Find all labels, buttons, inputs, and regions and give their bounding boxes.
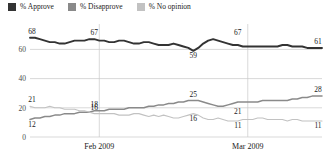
y-axis-tick-label: 40	[19, 74, 27, 83]
x-axis-tick-label: Feb 2009	[84, 142, 114, 151]
data-point-label: 67	[91, 28, 99, 37]
square-swatch-icon	[8, 3, 16, 11]
plot-area: 0204060 686759676112182521282116161111 F…	[0, 18, 328, 151]
series-line-approve	[30, 38, 322, 51]
y-axis-tick-label: 0	[22, 133, 26, 142]
legend-label-noopinion: % No opinion	[149, 3, 191, 11]
data-point-label: 11	[234, 121, 241, 130]
legend-label-disapprove: % Disapprove	[80, 3, 123, 11]
square-swatch-icon	[137, 3, 145, 11]
data-point-label: 16	[91, 103, 99, 112]
series-lines	[30, 38, 322, 121]
data-point-label: 21	[234, 107, 242, 116]
x-axis-tick-label: Mar 2009	[232, 142, 263, 151]
chart-legend: % Approve % Disapprove % No opinion	[8, 3, 191, 11]
square-swatch-icon	[68, 3, 76, 11]
data-point-label: 68	[28, 27, 36, 36]
y-axis-tick-label: 60	[19, 45, 27, 54]
y-axis-tick-labels: 0204060	[19, 45, 27, 142]
legend-item-disapprove: % Disapprove	[68, 3, 123, 11]
data-point-label: 21	[28, 95, 36, 104]
data-point-label: 12	[28, 120, 36, 129]
data-point-label: 11	[314, 121, 321, 130]
data-point-label: 28	[314, 85, 322, 94]
chart-svg: 0204060 686759676112182521282116161111 F…	[0, 18, 328, 151]
legend-item-approve: % Approve	[8, 3, 54, 11]
data-point-label: 59	[190, 51, 198, 60]
y-axis-tick-label: 20	[19, 104, 27, 113]
data-point-label: 16	[190, 114, 198, 123]
data-point-label: 61	[314, 37, 322, 46]
x-axis-tick-labels: Feb 2009Mar 2009	[84, 142, 263, 151]
opinion-trend-chart: % Approve % Disapprove % No opinion 0204…	[0, 0, 328, 151]
legend-label-approve: % Approve	[20, 3, 54, 11]
legend-item-noopinion: % No opinion	[137, 3, 191, 11]
data-point-label: 67	[234, 28, 242, 37]
data-point-label: 25	[190, 90, 198, 99]
